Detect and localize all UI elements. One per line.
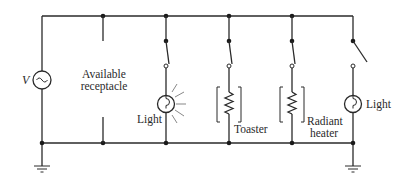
radiant-heater-label-line2: heater <box>310 127 338 139</box>
toaster-branch: Toaster <box>217 14 268 146</box>
light-1-label: Light <box>137 113 163 126</box>
source-label: V <box>22 73 31 87</box>
open-switch-icon <box>353 41 367 62</box>
light-2-branch: Light <box>345 16 392 172</box>
receptacle-label-line2: receptacle <box>81 80 128 93</box>
light-1-branch: Light <box>137 14 186 146</box>
ac-source-branch: V <box>22 16 51 172</box>
closed-switch-icon <box>292 41 295 64</box>
light-2-label: Light <box>366 98 392 111</box>
circuit-diagram: V Available receptacle <box>0 0 410 186</box>
available-receptacle-branch: Available receptacle <box>81 14 128 146</box>
closed-switch-icon <box>166 41 169 64</box>
closed-switch-icon <box>229 41 232 64</box>
switch-contact-icon <box>290 64 294 68</box>
toaster-label: Toaster <box>234 123 268 135</box>
radiant-heater-label-line1: Radiant <box>307 115 344 127</box>
ground-icon-left <box>34 166 50 172</box>
switch-contact-icon <box>351 64 355 68</box>
ground-icon-right <box>345 166 361 172</box>
switch-contact-icon <box>227 64 231 68</box>
tilde-icon <box>37 78 48 82</box>
receptacle-label-line1: Available <box>82 68 126 80</box>
radiant-heater-branch: Radiant heater <box>280 14 344 146</box>
junction-dot <box>40 141 45 146</box>
lamp-icon <box>345 96 362 113</box>
switch-contact-icon <box>164 64 168 68</box>
